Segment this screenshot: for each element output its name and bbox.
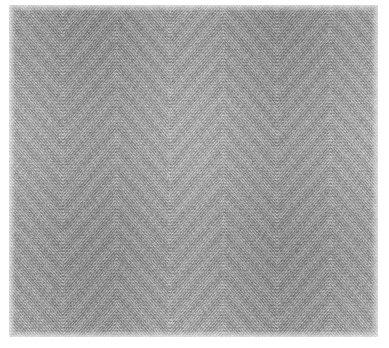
fabric-texture-swatch <box>9 5 378 337</box>
image-canvas: Grayscale close-up photograph of a herri… <box>0 0 389 348</box>
fabric-texture-canvas <box>9 5 378 337</box>
